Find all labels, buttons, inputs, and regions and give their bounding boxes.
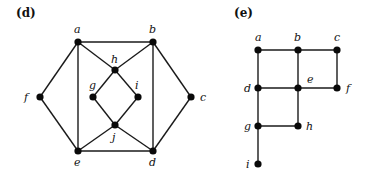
vertex-label-c: c bbox=[334, 31, 340, 44]
panel-label-d: (d) bbox=[16, 6, 36, 20]
edge-g-j bbox=[93, 97, 115, 125]
edge-f-e bbox=[40, 97, 78, 151]
vertex-f bbox=[36, 93, 43, 100]
vertex-g bbox=[254, 122, 261, 129]
vertex-j bbox=[111, 121, 118, 128]
vertex-a bbox=[254, 46, 261, 53]
edge-a-f bbox=[40, 42, 78, 97]
vertex-label-e: e bbox=[307, 73, 314, 86]
vertex-h bbox=[111, 66, 118, 73]
edge-a-h bbox=[78, 42, 115, 70]
edge-b-h bbox=[115, 42, 153, 70]
vertex-label-d: d bbox=[244, 82, 251, 95]
graph-panel-e: (e) abcdefghi bbox=[234, 6, 352, 171]
vertex-labels-d: abhgifcjed bbox=[23, 23, 206, 169]
vertex-label-b: b bbox=[149, 23, 156, 36]
edge-b-c bbox=[153, 42, 191, 97]
vertex-label-e: e bbox=[74, 156, 81, 169]
vertex-label-f: f bbox=[23, 91, 30, 104]
vertex-a bbox=[74, 38, 81, 45]
vertex-label-b: b bbox=[294, 31, 301, 44]
edge-h-g bbox=[93, 70, 115, 97]
vertex-e bbox=[74, 147, 81, 154]
panel-label-e: (e) bbox=[234, 6, 253, 20]
vertex-label-g: g bbox=[244, 120, 251, 133]
vertex-g bbox=[89, 93, 96, 100]
vertex-d bbox=[254, 84, 261, 91]
vertex-b bbox=[294, 46, 301, 53]
vertex-c bbox=[187, 93, 194, 100]
vertex-f bbox=[333, 84, 340, 91]
vertex-c bbox=[333, 46, 340, 53]
vertex-d bbox=[149, 147, 156, 154]
vertex-label-a: a bbox=[74, 23, 81, 36]
vertex-e bbox=[294, 84, 301, 91]
graph-diagram: (d) abhgifcjed (e) abcdefghi bbox=[0, 0, 372, 177]
vertex-i bbox=[254, 160, 261, 167]
vertex-b bbox=[149, 38, 156, 45]
vertex-label-f: f bbox=[345, 82, 352, 95]
edge-i-j bbox=[115, 97, 138, 125]
vertex-label-i: i bbox=[135, 79, 139, 92]
edges-e bbox=[258, 50, 337, 164]
vertex-label-d: d bbox=[149, 156, 156, 169]
vertex-label-i: i bbox=[246, 158, 250, 171]
vertex-label-j: j bbox=[109, 131, 116, 144]
vertex-label-h: h bbox=[306, 120, 313, 133]
vertex-h bbox=[294, 122, 301, 129]
vertex-i bbox=[134, 93, 141, 100]
vertex-label-a: a bbox=[255, 31, 262, 44]
graph-panel-d: (d) abhgifcjed bbox=[16, 6, 206, 169]
edge-c-d bbox=[153, 97, 191, 151]
vertex-label-g: g bbox=[89, 79, 96, 92]
vertex-label-c: c bbox=[200, 91, 206, 104]
vertex-label-h: h bbox=[111, 53, 118, 66]
edge-j-e bbox=[78, 125, 115, 151]
edge-j-d bbox=[115, 125, 153, 151]
